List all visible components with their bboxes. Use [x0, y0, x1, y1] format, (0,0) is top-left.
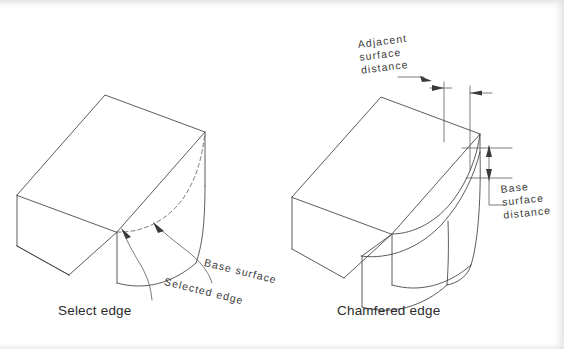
left-bottom-left-diag	[69, 232, 117, 275]
left-arrow-base-surface	[153, 222, 164, 233]
left-lower-face-top	[17, 246, 69, 275]
leader-arrow-adjacent	[420, 76, 432, 82]
dim-arrow-adjacent-left	[432, 85, 444, 91]
label-base-surface-distance: Base surface distance	[500, 178, 552, 222]
right-seam-right-curved	[447, 221, 448, 285]
right-solid-chamfered-edge	[292, 97, 480, 310]
right-chamfer-band-outer	[361, 152, 480, 257]
figure-root: Base surface Selected edge Adjacent surf…	[0, 0, 564, 349]
label-adjacent-surface-distance: Adjacent surface distance	[357, 32, 411, 77]
caption-chamfered-edge: Chamfered edge	[337, 303, 440, 318]
dim-arrow-adjacent-right-2	[470, 91, 482, 96]
left-leader-selected-edge	[123, 231, 152, 300]
left-leader-base-surface	[156, 225, 212, 283]
caption-select-edge: Select edge	[58, 303, 132, 318]
right-bottom-left-edge	[292, 249, 344, 278]
right-dimensions	[398, 76, 512, 205]
left-solid-select-edge	[17, 95, 205, 286]
right-front-fillet-bottom	[392, 265, 471, 288]
right-outer-fillet-curve	[471, 152, 480, 265]
left-arrow-selected-edge	[121, 228, 131, 239]
right-chamfer-left-facet	[362, 234, 392, 256]
left-top-face	[17, 95, 205, 232]
technical-drawing	[0, 0, 564, 349]
dim-arrow-base-up	[486, 145, 492, 157]
dim-arrow-base-down	[486, 169, 492, 181]
right-top-face	[292, 97, 480, 234]
left-right-fillet-curve	[196, 186, 205, 263]
